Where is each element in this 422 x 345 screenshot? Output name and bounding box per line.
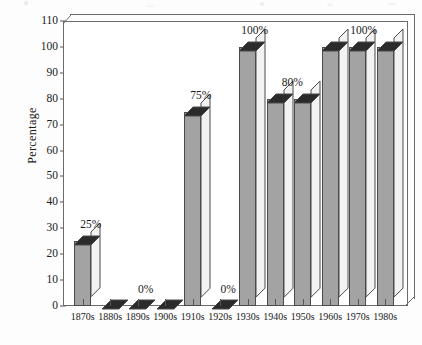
bar-top-face bbox=[74, 232, 100, 241]
x-axis-ticks: 1870s1880s1890s1900s1910s1920s1930s1940s… bbox=[0, 312, 422, 332]
y-tick-label: 110 bbox=[24, 15, 58, 27]
y-tick-label: 30 bbox=[24, 223, 58, 235]
x-tick-mark bbox=[275, 299, 276, 306]
bar-value-label-1940s: 80% bbox=[282, 77, 303, 89]
y-tick-label: 10 bbox=[24, 274, 58, 286]
bar-top-face bbox=[129, 296, 155, 305]
x-tick-label-1920s: 1920s bbox=[208, 312, 232, 322]
x-tick-mark bbox=[138, 299, 139, 306]
y-tick-label: 60 bbox=[24, 145, 58, 157]
x-tick-label-1930s: 1930s bbox=[236, 312, 260, 322]
y-axis-ticks: 0102030405060708090100110 bbox=[20, 0, 58, 345]
bar-front-face bbox=[239, 47, 256, 306]
x-tick-label-1870s: 1870s bbox=[71, 312, 95, 322]
bar-1870s bbox=[74, 241, 91, 306]
bar-1910s bbox=[184, 112, 201, 306]
bar-1950s bbox=[294, 99, 311, 306]
bar-top-face bbox=[212, 296, 238, 305]
x-tick-mark bbox=[385, 299, 386, 306]
bar-front-face bbox=[74, 241, 91, 306]
x-tick-mark bbox=[83, 299, 84, 306]
bar-1970s bbox=[349, 47, 366, 306]
x-tick-label-1980s: 1980s bbox=[373, 312, 397, 322]
x-tick-label-1910s: 1910s bbox=[181, 312, 205, 322]
bar-top-face bbox=[184, 103, 210, 112]
bar-top-face bbox=[102, 296, 128, 305]
x-tick-label-1970s: 1970s bbox=[346, 312, 370, 322]
bar-value-label-1920s: 0% bbox=[221, 284, 236, 296]
bar-value-label-1970s: 100% bbox=[350, 25, 377, 37]
x-tick-mark bbox=[358, 299, 359, 306]
x-tick-label-1890s: 1890s bbox=[126, 312, 150, 322]
bar-top-face bbox=[239, 38, 265, 47]
bar-top-face bbox=[294, 90, 320, 99]
bar-side-face bbox=[284, 99, 293, 306]
x-tick-mark bbox=[303, 299, 304, 306]
x-tick-label-1960s: 1960s bbox=[318, 312, 342, 322]
bar-front-face bbox=[322, 47, 339, 306]
bar-front-face bbox=[377, 47, 394, 306]
bar-side-face bbox=[339, 47, 348, 306]
y-tick-label: 40 bbox=[24, 197, 58, 209]
x-tick-mark bbox=[193, 299, 194, 306]
y-tick-label: 70 bbox=[24, 119, 58, 131]
y-tick-label: 80 bbox=[24, 93, 58, 105]
x-tick-label-1940s: 1940s bbox=[263, 312, 287, 322]
x-tick-mark bbox=[220, 299, 221, 306]
y-tick-label: 100 bbox=[24, 41, 58, 53]
chart-figure: Percentage 0102030405060708090100110 187… bbox=[0, 0, 422, 345]
bar-top-face bbox=[267, 90, 293, 99]
scan-artifact bbox=[0, 0, 422, 12]
y-tick-label: 20 bbox=[24, 248, 58, 260]
bar-side-face bbox=[91, 241, 100, 306]
x-tick-mark bbox=[110, 299, 111, 306]
x-tick-mark bbox=[248, 299, 249, 306]
bar-1980s bbox=[377, 47, 394, 306]
bar-1960s bbox=[322, 47, 339, 306]
bar-side-face bbox=[366, 47, 375, 306]
bar-value-label-1930s: 100% bbox=[241, 25, 268, 37]
bar-side-face bbox=[394, 47, 403, 306]
x-tick-label-1880s: 1880s bbox=[98, 312, 122, 322]
bar-front-face bbox=[349, 47, 366, 306]
bar-side-face bbox=[311, 99, 320, 306]
bar-1930s bbox=[239, 47, 256, 306]
bar-side-face bbox=[256, 47, 265, 306]
bar-top-face bbox=[322, 38, 348, 47]
bar-value-label-1870s: 25% bbox=[80, 219, 101, 231]
bar-top-face bbox=[377, 38, 403, 47]
bar-value-label-1890s: 0% bbox=[138, 284, 153, 296]
x-tick-mark bbox=[330, 299, 331, 306]
bar-front-face bbox=[267, 99, 284, 306]
bar-front-face bbox=[294, 99, 311, 306]
bar-top-face bbox=[157, 296, 183, 305]
bar-value-label-1910s: 75% bbox=[190, 90, 211, 102]
bar-series bbox=[63, 14, 415, 306]
bar-side-face bbox=[201, 112, 210, 306]
y-tick-label: 90 bbox=[24, 67, 58, 79]
x-tick-mark bbox=[165, 299, 166, 306]
bar-top-face bbox=[349, 38, 375, 47]
x-tick-label-1950s: 1950s bbox=[291, 312, 315, 322]
y-tick-label: 50 bbox=[24, 171, 58, 183]
bar-front-face bbox=[184, 112, 201, 306]
y-tick-label: 0 bbox=[24, 300, 58, 312]
x-tick-label-1900s: 1900s bbox=[153, 312, 177, 322]
bar-1940s bbox=[267, 99, 284, 306]
